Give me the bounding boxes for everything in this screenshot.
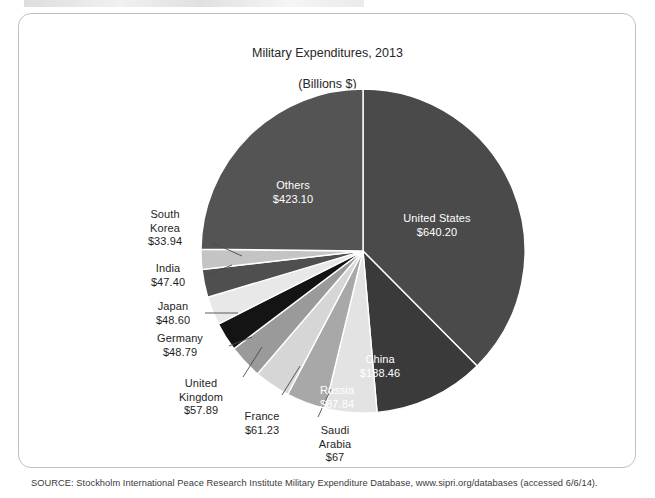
slice-label-saudi-arabia: Saudi Arabia $67: [297, 424, 373, 465]
slice-label-united-kingdom: United Kingdom $57.89: [159, 377, 243, 418]
slice-label-united-states: United States $640.20: [382, 212, 492, 239]
slice-label-china: China $188.46: [330, 353, 430, 380]
slice-label-south-korea: South Korea $33.94: [128, 208, 202, 249]
slice-label-others: Others $423.10: [243, 179, 343, 206]
source-note: SOURCE: Stockholm International Peace Re…: [31, 477, 598, 489]
slice-label-japan: Japan $48.60: [138, 300, 208, 327]
slice-label-germany: Germany $48.79: [137, 332, 223, 359]
chart-title-line1: Military Expenditures, 2013: [252, 46, 403, 60]
chart-title: Military Expenditures, 2013 (Billions $): [0, 30, 655, 92]
slice-label-india: India $47.40: [133, 262, 203, 289]
slice-label-russia: Russia $87.84: [297, 384, 377, 411]
chart-title-line2: (Billions $): [298, 77, 356, 91]
scan-artifact-strip: [24, 0, 364, 7]
